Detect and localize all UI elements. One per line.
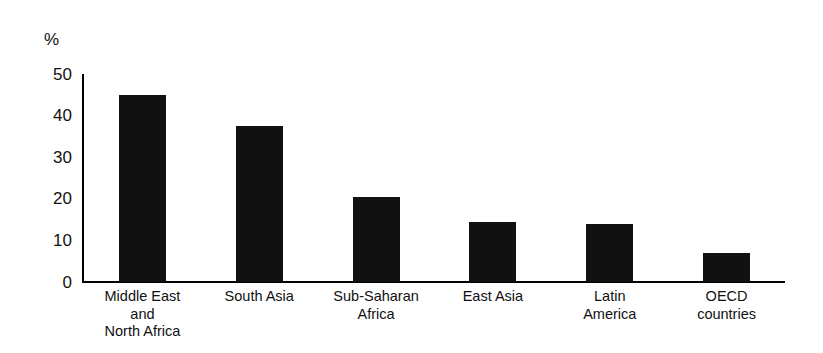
bar	[586, 224, 633, 282]
bar	[236, 126, 283, 282]
bar	[119, 95, 166, 282]
y-axis-tick-30: 30	[40, 149, 72, 166]
y-axis-tick-40: 40	[40, 107, 72, 124]
bar	[469, 222, 516, 282]
bar-slot	[119, 74, 166, 282]
bar-slot	[353, 74, 400, 282]
bar-slot	[236, 74, 283, 282]
x-axis-category-labels: Middle East and North AfricaSouth AsiaSu…	[84, 288, 785, 353]
y-axis-tick-50: 50	[40, 66, 72, 83]
category-label: OECD countries	[656, 288, 797, 323]
bar-slot	[469, 74, 516, 282]
y-axis-tick-labels: 01020304050	[36, 0, 72, 353]
y-axis-tick-0: 0	[40, 274, 72, 291]
y-axis-tick-10: 10	[40, 232, 72, 249]
bar	[353, 197, 400, 282]
bar-slot	[703, 74, 750, 282]
plot-area	[84, 74, 785, 282]
y-axis-tick-20: 20	[40, 190, 72, 207]
bar-slot	[586, 74, 633, 282]
bar-chart-figure: % 01020304050 Middle East and North Afri…	[0, 0, 823, 353]
bar	[703, 253, 750, 282]
